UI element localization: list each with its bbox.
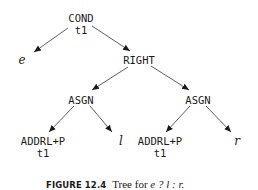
node-right: RIGHT xyxy=(123,54,155,66)
leaf-r: r xyxy=(234,134,240,148)
caption-text: Tree for xyxy=(112,178,150,190)
edge-cond-e xyxy=(34,28,68,52)
node-asgn-right-op: ASGN xyxy=(185,94,210,106)
tree-edges xyxy=(0,0,258,190)
leaf-e: e xyxy=(18,53,25,67)
node-addrl-right-reg: t1 xyxy=(138,147,182,159)
edge-right-asgn-right xyxy=(151,66,189,90)
node-addrl-right-op: ADDRL+P xyxy=(138,135,182,147)
tree-figure: COND t1 e RIGHT ASGN ASGN ADDRL+P t1 l A… xyxy=(0,0,258,190)
node-asgn-right: ASGN xyxy=(185,94,210,106)
edge-asgn-right-addr xyxy=(166,106,190,132)
edge-right-asgn-left xyxy=(92,67,128,90)
node-addrl-left: ADDRL+P t1 xyxy=(21,135,65,159)
node-cond: COND t1 xyxy=(68,12,93,36)
node-addrl-left-reg: t1 xyxy=(21,147,65,159)
node-cond-reg: t1 xyxy=(68,24,93,36)
node-addrl-right: ADDRL+P t1 xyxy=(138,135,182,159)
node-addrl-left-op: ADDRL+P xyxy=(21,135,65,147)
node-right-op: RIGHT xyxy=(123,54,155,66)
node-cond-op: COND xyxy=(68,12,93,24)
node-asgn-left-op: ASGN xyxy=(68,94,93,106)
edge-asgn-left-addr xyxy=(49,106,74,132)
edge-asgn-left-l xyxy=(90,106,112,132)
edge-cond-right xyxy=(92,26,130,51)
leaf-l: l xyxy=(119,134,123,148)
caption-expression: e ? l : r. xyxy=(150,178,184,190)
caption-label: FIGURE 12.4 xyxy=(46,180,106,190)
figure-caption: FIGURE 12.4Tree for e ? l : r. xyxy=(46,174,184,190)
node-asgn-left: ASGN xyxy=(68,94,93,106)
edge-asgn-right-r xyxy=(206,106,231,132)
